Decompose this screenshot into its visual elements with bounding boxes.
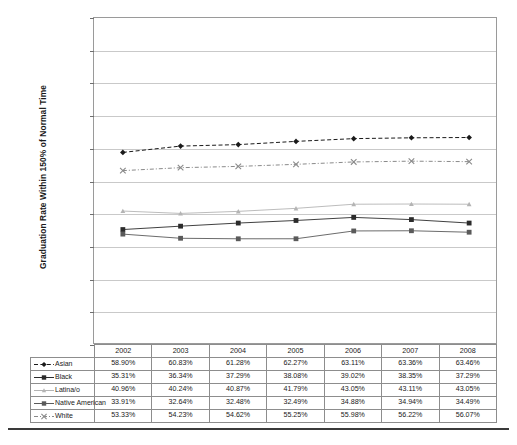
data-point-marker <box>236 236 241 241</box>
data-point-marker <box>351 136 357 142</box>
data-point-marker <box>409 217 414 222</box>
table-cell-value: 32.64% <box>152 396 209 409</box>
plot-area <box>93 17 497 344</box>
data-point-marker <box>120 227 125 232</box>
table-year-header: 2007 <box>382 345 439 358</box>
table-cell-value: 37.29% <box>209 370 266 383</box>
data-point-marker <box>120 232 125 237</box>
legend-entry-native-american: Native American <box>31 396 95 409</box>
legend-label: Latina/o <box>55 386 80 393</box>
table-cell-value: 54.23% <box>152 409 209 422</box>
table-cell-value: 63.11% <box>324 358 381 371</box>
table-cell-value: 53.33% <box>95 409 152 422</box>
table-cell-value: 32.49% <box>267 396 324 409</box>
legend-label: White <box>55 412 73 419</box>
legend-marker-slot <box>33 384 55 396</box>
legend-marker-slot <box>33 397 55 409</box>
table-cell-value: 63.36% <box>382 358 439 371</box>
table-cell-value: 37.29% <box>439 370 496 383</box>
table-cell-value: 41.79% <box>267 383 324 396</box>
series-line <box>123 161 469 170</box>
table-cell-value: 56.22% <box>382 409 439 422</box>
data-point-marker <box>466 135 472 141</box>
table-cell-value: 43.05% <box>439 383 496 396</box>
table-year-header: 2004 <box>209 345 266 358</box>
table-cell-value: 40.96% <box>95 383 152 396</box>
table-year-header: 2003 <box>152 345 209 358</box>
series-asian <box>120 135 472 156</box>
table-cell-value: 61.28% <box>209 358 266 371</box>
legend-entry-black: Black <box>31 370 95 383</box>
data-point-marker <box>351 159 357 165</box>
legend-entry-latina-o: Latina/o <box>31 383 95 396</box>
data-point-marker <box>178 143 184 149</box>
table-year-header: 2006 <box>324 345 381 358</box>
data-point-marker <box>467 221 472 226</box>
table-cell-value: 40.87% <box>209 383 266 396</box>
table-cell-value: 35.31% <box>95 370 152 383</box>
legend-marker-square-icon <box>33 373 55 382</box>
table-year-header: 2002 <box>95 345 152 358</box>
table-year-header: 2008 <box>439 345 496 358</box>
legend-entry-asian: Asian <box>31 358 95 371</box>
data-point-marker <box>235 142 241 148</box>
table-cell-value: 40.24% <box>152 383 209 396</box>
table-cell-value: 34.88% <box>324 396 381 409</box>
data-point-marker <box>467 230 472 235</box>
data-point-marker <box>294 236 299 241</box>
data-point-marker <box>409 135 415 141</box>
data-point-marker <box>293 139 299 145</box>
data-point-marker <box>294 218 299 223</box>
data-value-table: 2002200320042005200620072008 Asian58.90%… <box>30 344 497 423</box>
table-cell-value: 39.02% <box>324 370 381 383</box>
table-year-header: 2005 <box>267 345 324 358</box>
table-cell-value: 60.83% <box>152 358 209 371</box>
y-axis-title: Graduation Rate Within 150% of Normal Ti… <box>38 52 48 302</box>
table-cell-value: 58.90% <box>95 358 152 371</box>
legend-entry-white: White <box>31 409 95 422</box>
data-point-marker <box>351 229 356 234</box>
table-body: Asian58.90%60.83%61.28%62.27%63.11%63.36… <box>31 358 497 423</box>
table-row: Native American33.91%32.64%32.48%32.49%3… <box>31 396 497 409</box>
data-point-marker <box>236 221 241 226</box>
legend-header-spacer <box>31 345 95 358</box>
data-point-marker <box>351 215 356 220</box>
table-row: White53.33%54.23%54.62%55.25%55.98%56.22… <box>31 409 497 422</box>
footer-note <box>120 435 450 444</box>
table-cell-value: 62.27% <box>267 358 324 371</box>
table-cell-value: 43.05% <box>324 383 381 396</box>
footer-divider <box>8 428 509 430</box>
series-black <box>120 215 471 232</box>
table-cell-value: 63.46% <box>439 358 496 371</box>
graduation-rate-chart-figure: Graduation Rate Within 150% of Normal Ti… <box>0 0 517 445</box>
table-cell-value: 36.34% <box>152 370 209 383</box>
table-cell-value: 43.11% <box>382 383 439 396</box>
legend-label: Black <box>55 373 72 380</box>
data-point-marker <box>178 236 183 241</box>
table-cell-value: 55.25% <box>267 409 324 422</box>
data-point-marker <box>409 228 414 233</box>
series-layer <box>94 18 498 345</box>
data-point-marker <box>120 150 126 156</box>
table-cell-value: 54.62% <box>209 409 266 422</box>
legend-marker-triangle-icon <box>33 386 55 395</box>
legend-label: Asian <box>55 360 73 367</box>
legend-marker-slot <box>33 410 55 422</box>
table-cell-value: 55.98% <box>324 409 381 422</box>
table-row: Latina/o40.96%40.24%40.87%41.79%43.05%43… <box>31 383 497 396</box>
table-cell-value: 56.07% <box>439 409 496 422</box>
table-cell-value: 38.08% <box>267 370 324 383</box>
table-row: Black35.31%36.34%37.29%38.08%39.02%38.35… <box>31 370 497 383</box>
series-white <box>120 158 472 173</box>
legend-marker-slot <box>33 371 55 383</box>
series-native-american <box>120 228 471 241</box>
table-cell-value: 34.94% <box>382 396 439 409</box>
legend-label: Native American <box>55 399 106 406</box>
legend-marker-square-icon <box>33 399 55 408</box>
table-cell-value: 34.49% <box>439 396 496 409</box>
legend-marker-x-icon <box>33 412 55 421</box>
legend-marker-diamond-icon <box>33 360 55 369</box>
table-cell-value: 38.35% <box>382 370 439 383</box>
legend-marker-slot <box>33 358 55 370</box>
table-row: Asian58.90%60.83%61.28%62.27%63.11%63.36… <box>31 358 497 371</box>
